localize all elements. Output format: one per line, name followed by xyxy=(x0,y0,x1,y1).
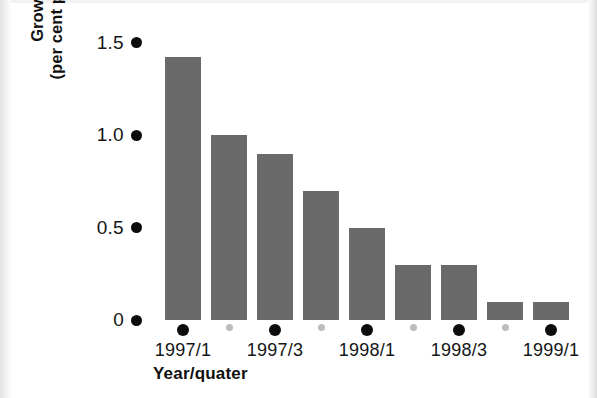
bar xyxy=(257,154,293,321)
y-axis-tick-dot-icon xyxy=(131,37,142,48)
bar xyxy=(211,135,247,320)
bar-chart-figure: Growth rate (per cent per quarter) 1.51.… xyxy=(0,0,597,398)
x-axis-major-tick-dot-icon xyxy=(545,324,557,336)
y-axis-tick: 1.5 xyxy=(22,30,142,56)
y-axis-tick: 1.0 xyxy=(22,122,142,148)
x-axis-title: Year/quater xyxy=(153,364,248,384)
x-axis-minor-tick-dot-icon xyxy=(410,324,417,331)
y-axis-tick-dot-icon xyxy=(131,222,142,233)
y-axis-tick-dot-icon xyxy=(131,315,142,326)
y-axis-tick-label: 0 xyxy=(113,309,124,331)
x-axis-minor-tick-dot-icon xyxy=(226,324,233,331)
y-axis-tick: 0 xyxy=(22,307,142,333)
y-axis-tick-label: 0.5 xyxy=(97,217,124,239)
bar xyxy=(395,265,431,321)
y-axis-tick-label: 1.0 xyxy=(97,124,124,146)
x-axis-major-tick-dot-icon xyxy=(269,324,281,336)
x-axis-tick-label: 1997/1 xyxy=(155,340,211,361)
x-axis-tick-label: 1998/1 xyxy=(339,340,395,361)
bar xyxy=(165,57,201,320)
x-axis-major-tick-dot-icon xyxy=(177,324,189,336)
bar xyxy=(303,191,339,321)
x-axis-minor-tick-dot-icon xyxy=(502,324,509,331)
x-axis-minor-tick-dot-icon xyxy=(318,324,325,331)
bar xyxy=(441,265,477,321)
y-axis-tick-label: 1.5 xyxy=(97,32,124,54)
y-axis-tick-dot-icon xyxy=(131,130,142,141)
bar xyxy=(533,302,569,321)
y-axis-tick: 0.5 xyxy=(22,215,142,241)
plot-area: 1.51.00.501997/11997/31998/11998/31999/1 xyxy=(0,0,597,398)
x-axis-tick-label: 1997/3 xyxy=(247,340,303,361)
bar xyxy=(487,302,523,321)
bar xyxy=(349,228,385,321)
x-axis-tick-label: 1998/3 xyxy=(431,340,487,361)
x-axis-major-tick-dot-icon xyxy=(361,324,373,336)
x-axis-tick-label: 1999/1 xyxy=(523,340,579,361)
x-axis-major-tick-dot-icon xyxy=(453,324,465,336)
